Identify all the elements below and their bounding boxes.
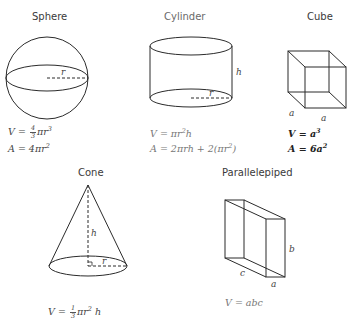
fraction: 13	[70, 305, 76, 320]
sphere-volume-formula: V = 43πr3	[8, 123, 52, 140]
cone-radius-label: r	[102, 256, 107, 266]
fraction: 43	[30, 125, 36, 140]
cube-figure	[288, 51, 346, 108]
cube-volume-formula: V = a3	[288, 125, 321, 140]
parallelepiped-label-b: b	[289, 244, 295, 254]
cone-height-label: h	[91, 228, 97, 238]
cone-figure	[49, 185, 127, 276]
cylinder-height-label: h	[236, 67, 242, 77]
cylinder-figure	[150, 37, 232, 107]
cone-volume-formula: V = 13πr2 h	[48, 303, 101, 320]
parallelepiped-label-c: c	[240, 268, 245, 278]
parallelepiped-figure	[225, 200, 285, 277]
cylinder-volume-formula: V = πr2h	[150, 125, 192, 140]
cylinder-area-formula: A = 2πrh + 2(πr2)	[150, 140, 236, 155]
sphere-area-formula: A = 4πr2	[8, 140, 50, 155]
cylinder-radius-label: r	[209, 88, 214, 98]
sphere-radius-label: r	[61, 67, 66, 77]
parallelepiped-volume-formula: V = abc	[225, 296, 263, 309]
geometry-figures: r h r a a h r b c a	[0, 0, 353, 321]
cube-area-formula: A = 6a2	[288, 140, 327, 155]
parallelepiped-label-a: a	[271, 279, 276, 289]
cube-edge-label-left: a	[289, 108, 294, 118]
sphere-figure	[6, 37, 88, 119]
cube-edge-label-bottom: a	[321, 113, 326, 123]
